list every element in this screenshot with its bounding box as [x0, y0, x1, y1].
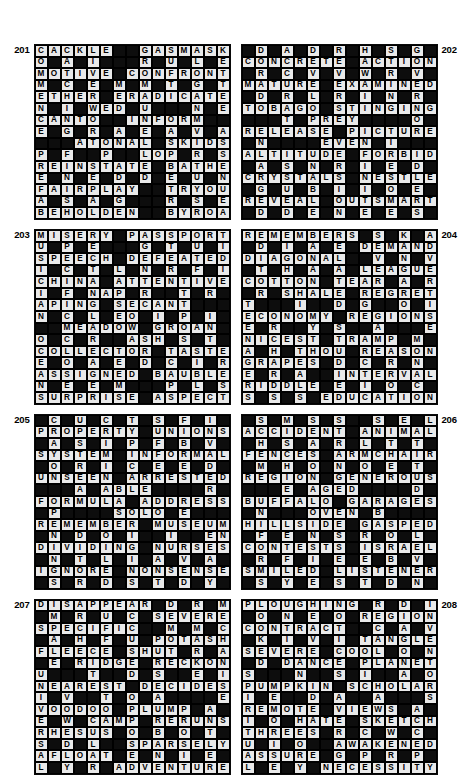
- crossword-cell-letter: T: [165, 242, 178, 254]
- crossword-cell-block: [346, 242, 359, 254]
- crossword-cell-letter: K: [294, 681, 307, 693]
- crossword-cell-letter: N: [307, 276, 320, 288]
- crossword-cell-block: [165, 311, 178, 323]
- crossword-cell-letter: I: [35, 265, 48, 277]
- crossword-cell-block: [307, 762, 320, 774]
- crossword-cell-block: [100, 196, 113, 208]
- crossword-cell-block: [87, 554, 100, 566]
- crossword-cell-letter: A: [385, 658, 398, 670]
- crossword-cell-letter: T: [126, 415, 139, 427]
- crossword-cell-block: [204, 623, 217, 635]
- crossword-cell-block: [204, 115, 217, 127]
- crossword-cell-letter: M: [35, 68, 48, 80]
- crossword-cell-letter: F: [281, 554, 294, 566]
- crossword-cell-letter: A: [113, 496, 126, 508]
- grid-205[interactable]: CUCTSFIPROPERTYUNIONSASIPFBVSYSTEMINFORM…: [34, 414, 231, 590]
- crossword-cell-letter: T: [424, 658, 437, 670]
- crossword-cell-block: [48, 265, 61, 277]
- grid-201[interactable]: CACKLEGASMASKOAIRULEMOTIVECONFRONTMCEMMT…: [34, 44, 231, 220]
- crossword-cell-letter: L: [100, 554, 113, 566]
- crossword-cell-block: [346, 554, 359, 566]
- crossword-cell-letter: D: [87, 542, 100, 554]
- crossword-cell-letter: E: [139, 126, 152, 138]
- crossword-cell-letter: N: [74, 299, 87, 311]
- crossword-cell-letter: H: [61, 91, 74, 103]
- crossword-cell-block: [204, 265, 217, 277]
- crossword-cell-letter: T: [113, 346, 126, 358]
- crossword-cell-letter: N: [281, 311, 294, 323]
- crossword-cell-letter: S: [333, 323, 346, 335]
- crossword-cell-letter: E: [307, 750, 320, 762]
- crossword-cell-block: [307, 138, 320, 150]
- crossword-cell-letter: I: [281, 149, 294, 161]
- crossword-cell-block: [35, 138, 48, 150]
- crossword-cell-letter: C: [320, 658, 333, 670]
- crossword-cell-block: [346, 91, 359, 103]
- crossword-cell-block: [320, 566, 333, 578]
- grid-208[interactable]: PLOUGHINGRDIONEOREGIONCONTRACTCAVKIVITAN…: [241, 599, 438, 775]
- crossword-cell-block: [126, 265, 139, 277]
- crossword-cell-block: [320, 381, 333, 393]
- crossword-cell-letter: M: [165, 704, 178, 716]
- crossword-cell-letter: P: [61, 242, 74, 254]
- crossword-cell-letter: R: [139, 473, 152, 485]
- crossword-cell-letter: I: [74, 542, 87, 554]
- crossword-cell-letter: N: [268, 542, 281, 554]
- crossword-cell-block: [346, 415, 359, 427]
- crossword-cell-letter: M: [268, 681, 281, 693]
- crossword-cell-letter: D: [281, 658, 294, 670]
- crossword-cell-block: [100, 265, 113, 277]
- grid-203[interactable]: MISERYPASSPORTUPEGTUISPEECHDEFEATEDICTLN…: [34, 229, 231, 405]
- crossword-cell-letter: E: [281, 230, 294, 242]
- crossword-cell-block: [165, 727, 178, 739]
- crossword-cell-letter: A: [152, 392, 165, 404]
- crossword-cell-letter: A: [294, 658, 307, 670]
- crossword-cell-block: [411, 623, 424, 635]
- crossword-cell-letter: S: [126, 646, 139, 658]
- crossword-cell-block: [242, 161, 255, 173]
- grid-206[interactable]: SMSSSELACCIDENTANIMALHSARLTTFENCESARMCHA…: [241, 414, 438, 590]
- crossword-cell-letter: M: [35, 80, 48, 92]
- crossword-cell-letter: L: [242, 762, 255, 774]
- crossword-cell-block: [139, 635, 152, 647]
- crossword-cell-block: [398, 484, 411, 496]
- grid-202[interactable]: DADRHSGCONCRETEACTIONRCVVWRVMATUREEXAMIN…: [241, 44, 438, 220]
- crossword-cell-block: [74, 716, 87, 728]
- crossword-cell-letter: E: [307, 381, 320, 393]
- crossword-cell-letter: S: [178, 739, 191, 751]
- crossword-cell-letter: A: [152, 692, 165, 704]
- crossword-cell-letter: A: [294, 369, 307, 381]
- crossword-cell-letter: I: [359, 126, 372, 138]
- crossword-cell-letter: D: [411, 161, 424, 173]
- grid-204[interactable]: REMEMBERSSKADIAEDEMANDDIAGONALVNVTHAALEA…: [241, 229, 438, 405]
- crossword-cell-letter: E: [372, 265, 385, 277]
- crossword-cell-block: [165, 692, 178, 704]
- crossword-cell-letter: E: [191, 392, 204, 404]
- crossword-cell-block: [320, 704, 333, 716]
- crossword-cell-letter: E: [35, 173, 48, 185]
- crossword-cell-letter: R: [74, 611, 87, 623]
- crossword-cell-letter: T: [424, 196, 437, 208]
- crossword-cell-block: [346, 611, 359, 623]
- crossword-cell-block: [61, 658, 74, 670]
- crossword-cell-letter: N: [48, 473, 61, 485]
- crossword-cell-letter: E: [281, 196, 294, 208]
- crossword-cell-block: [191, 334, 204, 346]
- crossword-cell-letter: O: [255, 611, 268, 623]
- crossword-cell-block: [346, 299, 359, 311]
- crossword-cell-letter: O: [398, 646, 411, 658]
- crossword-cell-letter: T: [268, 80, 281, 92]
- grid-207[interactable]: DISAPPEARDRMMRUCSEVERESPECIFICMMCAHFUPOT…: [34, 599, 231, 775]
- crossword-cell-block: [281, 716, 294, 728]
- crossword-cell-letter: R: [255, 68, 268, 80]
- crossword-cell-block: [139, 207, 152, 219]
- crossword-cell-letter: D: [165, 600, 178, 612]
- crossword-cell-letter: F: [165, 68, 178, 80]
- crossword-cell-letter: G: [372, 311, 385, 323]
- crossword-cell-letter: D: [191, 681, 204, 693]
- crossword-cell-letter: C: [242, 276, 255, 288]
- crossword-cell-letter: T: [178, 288, 191, 300]
- crossword-cell-letter: C: [281, 450, 294, 462]
- crossword-cell-letter: U: [346, 196, 359, 208]
- crossword-cell-letter: E: [372, 611, 385, 623]
